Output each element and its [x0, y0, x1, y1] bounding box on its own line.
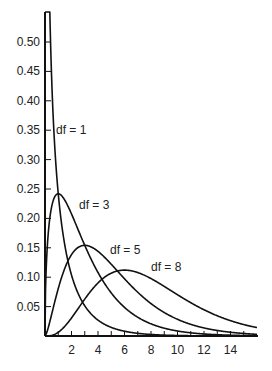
label-df-1: df = 1	[56, 123, 87, 137]
x-tick-label: 6	[121, 343, 128, 357]
curve-df-1	[45, 12, 257, 336]
y-tick-label: 0.25	[17, 182, 41, 196]
y-tick-label: 0.50	[17, 35, 41, 49]
y-tick-label: 0.05	[17, 300, 41, 314]
x-tick-label: 4	[95, 343, 102, 357]
label-df-3: df = 3	[79, 198, 110, 212]
y-tick-label: 0.10	[17, 270, 41, 284]
y-tick-label: 0.15	[17, 241, 41, 255]
x-tick-label: 2	[68, 343, 75, 357]
chi-square-density-chart: 0.050.100.150.200.250.300.350.400.450.50…	[0, 0, 272, 371]
label-df-5: df = 5	[110, 243, 141, 257]
y-tick-label: 0.20	[17, 211, 41, 225]
y-tick-label: 0.45	[17, 64, 41, 78]
label-df-8: df = 8	[151, 260, 182, 274]
x-tick-label: 10	[171, 343, 185, 357]
x-tick-label: 14	[224, 343, 238, 357]
y-tick-label: 0.35	[17, 123, 41, 137]
x-tick-label: 8	[148, 343, 155, 357]
y-tick-label: 0.40	[17, 94, 41, 108]
density-curves	[45, 12, 257, 336]
x-tick-label: 12	[197, 343, 211, 357]
y-tick-label: 0.30	[17, 153, 41, 167]
